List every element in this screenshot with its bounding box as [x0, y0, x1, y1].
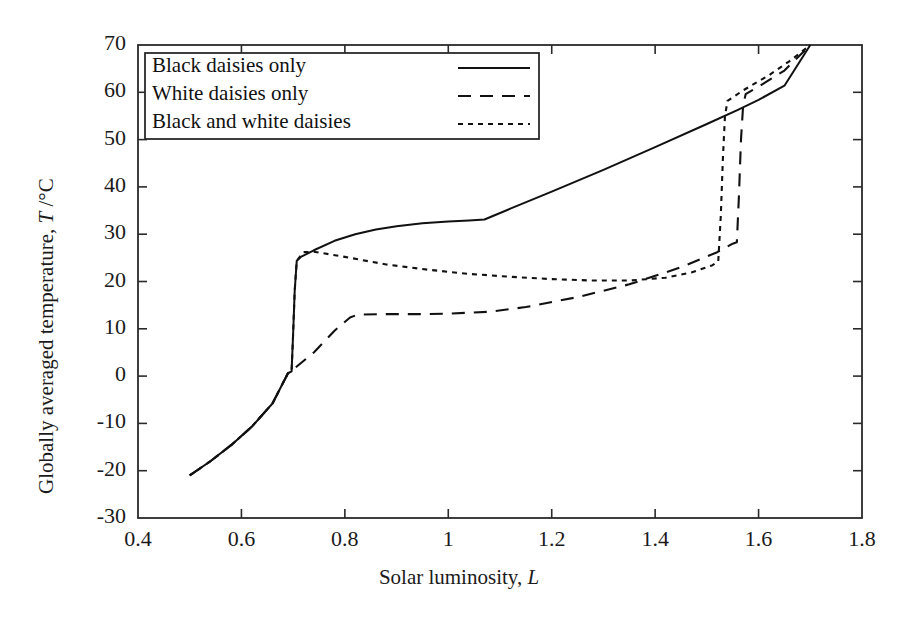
- y-axis-title: Globally averaged temperature, T /°C: [34, 178, 59, 494]
- chart-figure: 706050403020100-10-20-30 0.40.60.811.21.…: [0, 0, 918, 625]
- y-tick-label: 30: [66, 219, 126, 245]
- x-tick-label: 1: [418, 526, 478, 552]
- y-tick-label: 70: [66, 30, 126, 56]
- legend-entry-label: Black and white daisies: [152, 109, 351, 134]
- y-tick-label: 60: [66, 77, 126, 103]
- legend-entry-label: White daisies only: [152, 81, 308, 106]
- x-tick-label: 1.4: [625, 526, 685, 552]
- y-tick-label: 50: [66, 125, 126, 151]
- x-tick-label: 1.2: [522, 526, 582, 552]
- y-tick-label: -20: [66, 456, 126, 482]
- x-axis-title: Solar luminosity, L: [0, 565, 918, 590]
- x-tick-label: 0.8: [315, 526, 375, 552]
- y-tick-label: 10: [66, 314, 126, 340]
- x-axis-title-symbol: L: [527, 565, 539, 589]
- x-tick-label: 1.6: [729, 526, 789, 552]
- x-axis-title-text: Solar luminosity,: [379, 565, 522, 589]
- x-tick-label: 0.6: [211, 526, 271, 552]
- y-tick-label: 40: [66, 172, 126, 198]
- y-tick-label: -10: [66, 408, 126, 434]
- legend-entry-label: Black daisies only: [152, 53, 306, 78]
- y-axis-title-symbol: T: [34, 212, 58, 224]
- y-tick-label: 0: [66, 361, 126, 387]
- x-tick-label: 0.4: [108, 526, 168, 552]
- y-tick-label: 20: [66, 267, 126, 293]
- y-axis-title-text: Globally averaged temperature,: [34, 229, 58, 494]
- y-axis-title-unit: /°C: [34, 178, 58, 206]
- x-tick-label: 1.8: [832, 526, 892, 552]
